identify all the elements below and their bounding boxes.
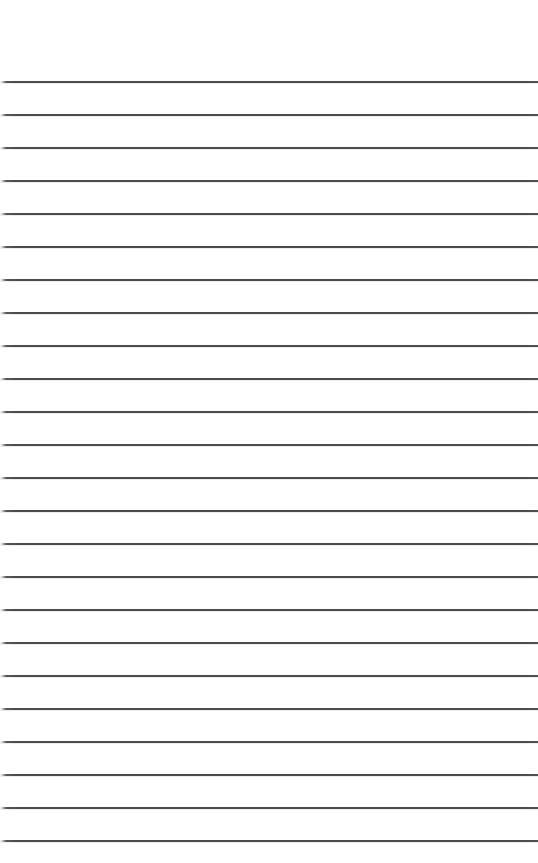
ruled-line (0, 411, 538, 413)
lined-paper-page (0, 0, 538, 863)
ruled-line (0, 180, 538, 182)
ruled-line (0, 840, 538, 842)
ruled-line (0, 378, 538, 380)
ruled-line (0, 279, 538, 281)
ruled-line (0, 444, 538, 446)
ruled-line (0, 81, 538, 83)
ruled-line (0, 708, 538, 710)
ruled-line (0, 543, 538, 545)
ruled-line (0, 312, 538, 314)
ruled-line (0, 345, 538, 347)
ruled-line (0, 807, 538, 809)
ruled-line (0, 246, 538, 248)
ruled-line (0, 609, 538, 611)
ruled-line (0, 213, 538, 215)
ruled-line (0, 642, 538, 644)
ruled-line (0, 741, 538, 743)
ruled-line (0, 510, 538, 512)
ruled-line (0, 477, 538, 479)
ruled-line (0, 576, 538, 578)
ruled-line (0, 147, 538, 149)
ruled-line (0, 774, 538, 776)
ruled-line (0, 675, 538, 677)
ruled-line (0, 114, 538, 116)
